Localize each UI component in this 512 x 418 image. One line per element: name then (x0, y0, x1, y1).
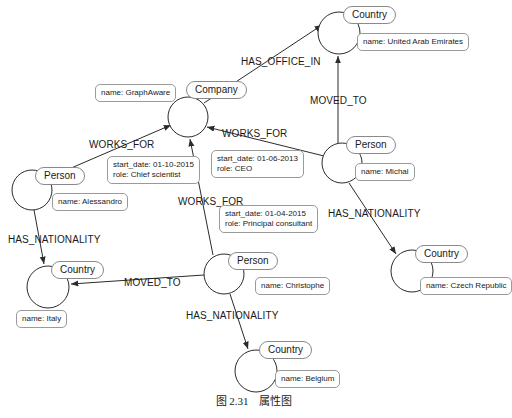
node-label-company-graphaware[interactable]: Company (186, 81, 247, 99)
node-label-person-michal[interactable]: Person (346, 136, 396, 154)
node-label-person-alessandro[interactable]: Person (35, 167, 85, 185)
edge-label-moved-to-uae: MOVED_TO (310, 95, 367, 106)
edge-property-role-christophe: role: Principal consultant (225, 219, 312, 229)
figure-caption-number: 图 2.31 (216, 395, 249, 407)
node-label-country-uae[interactable]: Country (343, 6, 396, 24)
edge-label-works-for-alessandro: WORKS_FOR (89, 139, 154, 150)
edge-label-has-nationality-alessandro: HAS_NATIONALITY (8, 234, 100, 245)
node-property-person-alessandro: name: Alessandro (52, 193, 128, 211)
edge-property-start-date-michal: start_date: 01-06-2013 (217, 154, 298, 164)
edge-property-start-date-alessandro: start_date: 01-10-2015 (113, 160, 194, 170)
edge-property-role-michal: role: CEO (217, 164, 298, 174)
node-label-country-belgium[interactable]: Country (259, 341, 312, 359)
edge-property-start-date-christophe: start_date: 01-04-2015 (225, 209, 312, 219)
edge-label-moved-to-italy: MOVED_TO (124, 277, 181, 288)
edge-property-works-for-alessandro: start_date: 01-10-2015 role: Chief scien… (107, 156, 200, 184)
node-label-person-christophe[interactable]: Person (228, 252, 278, 270)
edge-label-works-for-michal: WORKS_FOR (222, 128, 287, 139)
node-property-country-czech: name: Czech Republic (420, 277, 512, 295)
edge-label-has-nationality-michal: HAS_NATIONALITY (328, 208, 420, 219)
edge-property-works-for-michal: start_date: 01-06-2013 role: CEO (211, 150, 304, 178)
edges-layer (34, 25, 396, 349)
edge-label-has-office-in: HAS_OFFICE_IN (241, 56, 321, 67)
figure-caption: 图 2.31属性图 (0, 392, 507, 408)
node-label-country-italy[interactable]: Country (51, 261, 104, 279)
figure-caption-title: 属性图 (259, 395, 292, 407)
node-property-country-belgium: name: Belgium (275, 370, 340, 388)
edge-has-nationality-christophe (230, 294, 248, 349)
edge-property-works-for-christophe: start_date: 01-04-2015 role: Principal c… (219, 205, 318, 233)
node-property-country-uae: name: United Arab Emirates (357, 33, 469, 51)
node-circle-company-graphaware[interactable] (168, 97, 208, 137)
node-label-country-czech[interactable]: Country (415, 245, 468, 263)
node-property-company-graphaware: name: GraphAware (95, 84, 176, 102)
node-property-person-christophe: name: Christophe (255, 277, 330, 295)
edge-label-has-nationality-christophe: HAS_NATIONALITY (186, 310, 278, 321)
node-property-country-italy: name: Italy (16, 310, 67, 328)
node-property-person-michal: name: Michal (355, 163, 415, 181)
edge-property-role-alessandro: role: Chief scientist (113, 170, 194, 180)
